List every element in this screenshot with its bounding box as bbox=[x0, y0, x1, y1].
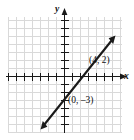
x-axis-label: x bbox=[124, 72, 129, 82]
point-label-0-neg3: (0, –3) bbox=[68, 96, 93, 106]
point-label-4-2: (4, 2) bbox=[89, 56, 110, 66]
coordinate-plane-svg bbox=[0, 0, 134, 140]
y-axis-label: y bbox=[55, 5, 59, 15]
graph-figure: (4, 2) (0, –3) y x bbox=[0, 0, 134, 140]
